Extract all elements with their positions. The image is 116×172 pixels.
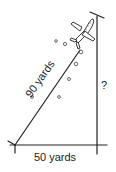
smoke-puff-icon	[79, 50, 83, 54]
triangle-diagram: 90 yards ? 50 yards	[0, 0, 116, 172]
hypotenuse-label: 90 yards	[23, 58, 57, 100]
airplane-icon	[70, 19, 95, 49]
smoke-puff-icon	[63, 42, 66, 45]
smoke-puff-icon	[68, 78, 71, 81]
base-label: 50 yards	[34, 151, 77, 163]
smoke-puff-icon	[74, 62, 78, 66]
smoke-puff-icon	[58, 96, 61, 99]
height-label: ?	[101, 79, 107, 91]
smoke-puff-icon	[55, 40, 58, 43]
